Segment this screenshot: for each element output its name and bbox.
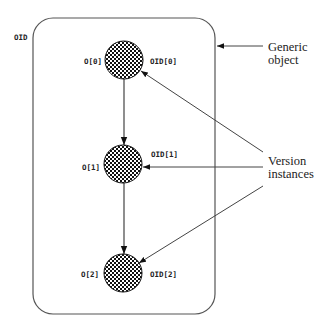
node-1-right-label: OID[1] bbox=[151, 150, 178, 159]
version-instances-label-line1: Version bbox=[268, 154, 307, 168]
node-2-left-label: O[2] bbox=[81, 270, 99, 279]
node-1-left-label: O[1] bbox=[82, 163, 100, 172]
version-node-1 bbox=[104, 145, 142, 183]
version-arrow-0 bbox=[141, 71, 263, 152]
oid-label: OID bbox=[14, 33, 28, 42]
version-node-2 bbox=[104, 254, 142, 292]
version-diagram: OID O[0] OID[0] O[1] OID[1] O[2] OID[2] … bbox=[0, 0, 329, 331]
version-instances-label-line2: instances bbox=[268, 167, 314, 181]
version-arrow-2 bbox=[139, 186, 263, 263]
generic-object-label-line2: object bbox=[268, 53, 299, 67]
node-0-right-label: OID[0] bbox=[150, 57, 177, 66]
version-node-0 bbox=[105, 41, 143, 79]
generic-object-label-line1: Generic bbox=[268, 40, 308, 54]
node-2-right-label: OID[2] bbox=[150, 270, 177, 279]
node-0-left-label: O[0] bbox=[84, 57, 102, 66]
